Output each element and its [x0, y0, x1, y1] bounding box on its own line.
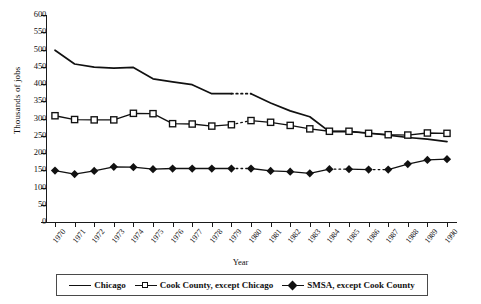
data-point-marker	[169, 164, 177, 172]
y-tick-250: 250	[0, 136, 46, 137]
y-tick-label: 400	[20, 79, 46, 88]
y-tick-label: 550	[20, 27, 46, 36]
x-tick-mark	[329, 222, 330, 227]
data-point-marker	[444, 130, 450, 136]
data-point-marker	[405, 132, 411, 138]
y-tick-label: 50	[20, 200, 46, 209]
x-tick-mark	[114, 222, 115, 227]
y-tick-label: 500	[20, 45, 46, 54]
data-point-marker	[384, 165, 392, 173]
legend-label: SMSA, except Cook County	[307, 281, 415, 290]
x-tick-mark	[251, 222, 252, 227]
data-point-marker	[366, 130, 372, 136]
x-tick-mark	[408, 222, 409, 227]
plot-area	[46, 15, 456, 222]
x-tick-mark	[388, 222, 389, 227]
x-axis-title: Year	[0, 258, 481, 267]
x-tick-mark	[94, 222, 95, 227]
y-tick-300: 300	[0, 119, 46, 120]
y-tick-label: 150	[20, 165, 46, 174]
data-point-marker	[227, 164, 235, 172]
data-point-marker	[90, 167, 98, 175]
y-tick-500: 500	[0, 50, 46, 51]
series-segment	[55, 50, 231, 93]
x-tick-mark	[310, 222, 311, 227]
data-point-marker	[188, 164, 196, 172]
line-chart: Thousands of jobs 6005505004504003503002…	[0, 0, 481, 304]
legend-filled-diamond-icon	[282, 281, 304, 290]
x-tick-mark	[369, 222, 370, 227]
series-lines	[46, 15, 456, 222]
x-tick-mark	[349, 222, 350, 227]
data-point-marker	[150, 111, 156, 117]
data-point-marker	[307, 126, 313, 132]
series-segment	[55, 113, 231, 126]
data-point-marker	[170, 121, 176, 127]
y-tick-label: 600	[20, 10, 46, 19]
data-point-marker	[129, 163, 137, 171]
data-point-marker	[228, 122, 234, 128]
chart-legend: ChicagoCook County, except ChicagoSMSA, …	[56, 274, 428, 296]
data-point-marker	[91, 117, 97, 123]
data-point-marker	[110, 163, 118, 171]
y-tick-450: 450	[0, 67, 46, 68]
data-point-marker	[267, 167, 275, 175]
data-point-marker	[326, 128, 332, 134]
data-point-marker	[71, 170, 79, 178]
y-tick-400: 400	[0, 84, 46, 85]
data-point-marker	[51, 166, 59, 174]
x-tick-mark	[75, 222, 76, 227]
y-tick-550: 550	[0, 32, 46, 33]
x-tick-mark	[173, 222, 174, 227]
legend-entry-0: Chicago	[69, 281, 126, 290]
x-tick-mark	[271, 222, 272, 227]
x-tick-mark	[55, 222, 56, 227]
y-tick-600: 600	[0, 15, 46, 16]
data-point-marker	[208, 164, 216, 172]
data-point-marker	[189, 121, 195, 127]
x-tick-mark	[133, 222, 134, 227]
data-point-marker	[268, 119, 274, 125]
x-tick-mark	[290, 222, 291, 227]
data-point-marker	[209, 123, 215, 129]
legend-open-square-icon	[135, 281, 157, 290]
data-point-marker	[149, 165, 157, 173]
data-point-marker	[404, 160, 412, 168]
y-tick-label: 250	[20, 131, 46, 140]
data-point-marker	[385, 132, 391, 138]
data-point-marker	[346, 128, 352, 134]
legend-entry-1: Cook County, except Chicago	[135, 281, 274, 290]
data-point-marker	[286, 168, 294, 176]
y-tick-50: 50	[0, 205, 46, 206]
series-segment	[55, 167, 231, 174]
y-tick-100: 100	[0, 188, 46, 189]
y-tick-label: 450	[20, 62, 46, 71]
y-tick-350: 350	[0, 101, 46, 102]
legend-entry-2: SMSA, except Cook County	[282, 281, 415, 290]
y-tick-0: 0	[0, 222, 46, 223]
data-point-marker	[72, 116, 78, 122]
data-point-marker	[424, 130, 430, 136]
legend-label: Chicago	[94, 281, 126, 290]
data-point-marker	[111, 117, 117, 123]
y-tick-150: 150	[0, 170, 46, 171]
x-tick-mark	[231, 222, 232, 227]
x-tick-mark	[153, 222, 154, 227]
data-point-marker	[306, 169, 314, 177]
data-point-marker	[443, 155, 451, 163]
x-tick-mark	[192, 222, 193, 227]
data-point-marker	[52, 113, 58, 119]
x-tick-mark	[447, 222, 448, 227]
y-tick-label: 0	[20, 217, 46, 226]
data-point-marker	[325, 165, 333, 173]
legend-line-icon	[69, 281, 91, 290]
data-point-marker	[247, 164, 255, 172]
y-tick-label: 200	[20, 148, 46, 157]
y-tick-label: 350	[20, 96, 46, 105]
legend-label: Cook County, except Chicago	[160, 281, 274, 290]
y-tick-label: 100	[20, 183, 46, 192]
y-tick-200: 200	[0, 153, 46, 154]
y-tick-label: 300	[20, 114, 46, 123]
x-tick-mark	[427, 222, 428, 227]
x-tick-mark	[212, 222, 213, 227]
